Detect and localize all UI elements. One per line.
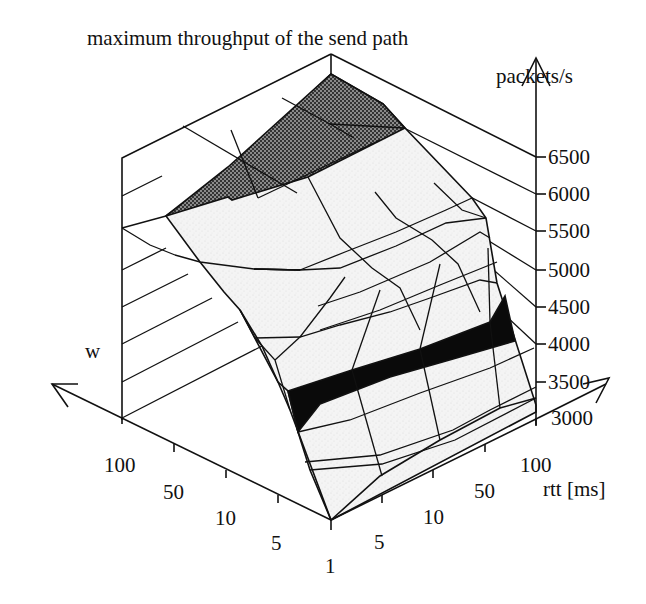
w-tick-10: 10 [215, 506, 236, 530]
w-tick-5: 5 [271, 531, 282, 555]
z-tick-6000: 6000 [548, 182, 590, 206]
z-tick-3500: 3500 [548, 370, 590, 394]
surface [166, 74, 536, 520]
z-tick-4500: 4500 [548, 295, 590, 319]
z-tick-4000: 4000 [548, 332, 590, 356]
z-tick-5500: 5500 [548, 219, 590, 243]
z-tick-5000: 5000 [548, 258, 590, 282]
z-tick-6500: 6500 [548, 145, 590, 169]
w-axis-label: w [85, 339, 101, 363]
rtt-axis-label: rtt [ms] [543, 477, 605, 501]
rtt-tick-50: 50 [474, 479, 495, 503]
w-tick-100: 100 [104, 453, 136, 477]
origin-tick-1: 1 [325, 554, 336, 578]
rtt-tick-100: 100 [520, 453, 552, 477]
throughput-surface-chart: maximum throughput of the send path [0, 0, 646, 604]
rtt-tick-5: 5 [374, 530, 385, 554]
z-tick-3000: 3000 [551, 406, 593, 430]
chart-title: maximum throughput of the send path [87, 26, 409, 50]
w-tick-50: 50 [163, 480, 184, 504]
rtt-tick-10: 10 [423, 505, 444, 529]
z-axis-label: packets/s [496, 64, 573, 88]
